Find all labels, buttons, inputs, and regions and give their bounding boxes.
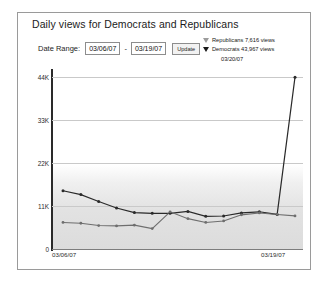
triangle-down-icon [203,47,209,52]
legend-item-republicans: Republicans 7,616 views [203,36,315,45]
date-range-controls: Date Range: 03/06/07 - 03/19/07 Update [38,42,200,55]
legend-label-republicans: Republicans 7,616 views [212,36,275,44]
chart-legend: Republicans 7,616 views Democrats 43,967… [203,36,315,63]
triangle-down-icon [203,38,209,43]
legend-date: 03/20/07 [221,55,315,63]
date-separator: - [123,44,128,53]
chart-frame: Daily views for Democrats and Republican… [17,12,311,270]
plot-area: 44K 33K 22K 11K 0 [31,73,303,249]
line-democrats [63,77,295,216]
start-date-input[interactable]: 03/06/07 [85,42,120,55]
y-tick-label: 11K [38,203,49,210]
legend-item-democrats: Democrats 43,967 views [203,45,315,54]
date-range-label: Date Range: [38,44,80,53]
end-date-input[interactable]: 03/19/07 [131,42,166,55]
x-axis-line [52,249,303,250]
update-button[interactable]: Update [172,43,200,55]
y-tick-label: 0 [45,246,49,253]
x-tick-label-start: 03/06/07 [52,251,76,258]
series-canvas [52,73,303,249]
y-tick-label: 44K [38,74,49,81]
x-tick-label-end: 03/19/07 [261,251,285,258]
points-democrats [62,76,297,218]
y-tick-label: 33K [38,117,49,124]
y-tick-label: 22K [38,160,49,167]
page-title: Daily views for Democrats and Republican… [32,18,239,30]
legend-label-democrats: Democrats 43,967 views [212,45,274,53]
